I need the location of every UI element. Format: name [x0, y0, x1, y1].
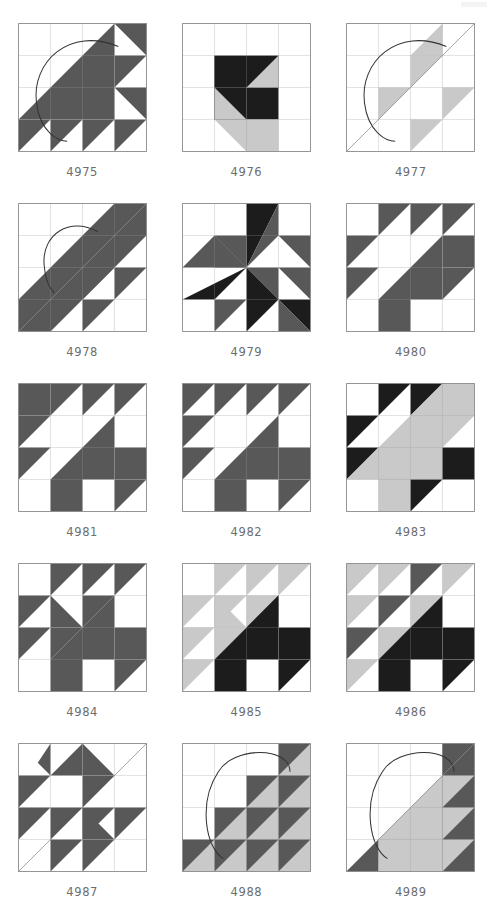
patch-dark [278, 628, 310, 660]
block-cell: 4985 [164, 548, 328, 728]
quilt-block-svg [180, 381, 313, 514]
block-label: 4981 [66, 525, 98, 539]
block-cell: 4977 [329, 8, 493, 188]
quilt-block-svg [180, 741, 313, 874]
block-cell: 4982 [164, 368, 328, 548]
block-grid: 4975497649774978497949804981498249834984… [0, 8, 493, 908]
quilt-block-svg [16, 381, 149, 514]
patch-dark [443, 628, 475, 660]
quilt-block-svg [16, 21, 149, 154]
quilt-block-svg [16, 741, 149, 874]
quilt-block-svg [180, 201, 313, 334]
block-cell: 4987 [0, 728, 164, 908]
block-label: 4980 [395, 345, 427, 359]
patch-mid [18, 384, 50, 416]
block-label: 4986 [395, 705, 427, 719]
block-cell: 4981 [0, 368, 164, 548]
page-corner-mark [461, 2, 487, 7]
quilt-block-4984[interactable] [16, 561, 149, 694]
block-label: 4978 [66, 345, 98, 359]
quilt-block-4975[interactable] [16, 21, 149, 154]
block-label: 4976 [231, 165, 263, 179]
quilt-block-4978[interactable] [16, 201, 149, 334]
patch-mid [443, 236, 475, 268]
block-label: 4979 [231, 345, 263, 359]
quilt-block-svg [180, 561, 313, 694]
block-label: 4989 [395, 885, 427, 899]
catalog-page: 4975497649774978497949804981498249834984… [0, 0, 493, 923]
quilt-block-4982[interactable] [180, 381, 313, 514]
block-cell: 4976 [164, 8, 328, 188]
block-label: 4977 [395, 165, 427, 179]
quilt-block-svg [180, 21, 313, 154]
block-cell: 4980 [329, 188, 493, 368]
block-cell: 4984 [0, 548, 164, 728]
block-label: 4982 [231, 525, 263, 539]
quilt-block-4976[interactable] [180, 21, 313, 154]
block-label: 4987 [66, 885, 98, 899]
block-cell: 4975 [0, 8, 164, 188]
quilt-block-svg [344, 381, 477, 514]
patch-dark [246, 88, 278, 120]
quilt-block-svg [16, 201, 149, 334]
quilt-block-4987[interactable] [16, 741, 149, 874]
block-label: 4984 [66, 705, 98, 719]
quilt-block-svg [344, 561, 477, 694]
quilt-block-svg [344, 21, 477, 154]
block-cell: 4983 [329, 368, 493, 548]
quilt-block-4986[interactable] [344, 561, 477, 694]
quilt-block-4981[interactable] [16, 381, 149, 514]
block-label: 4985 [231, 705, 263, 719]
quilt-block-4977[interactable] [344, 21, 477, 154]
block-cell: 4986 [329, 548, 493, 728]
quilt-block-svg [344, 201, 477, 334]
patch-mid [114, 448, 146, 480]
quilt-block-svg [16, 561, 149, 694]
quilt-block-4983[interactable] [344, 381, 477, 514]
quilt-block-4988[interactable] [180, 741, 313, 874]
block-cell: 4978 [0, 188, 164, 368]
patch-mid [114, 628, 146, 660]
quilt-block-4980[interactable] [344, 201, 477, 334]
quilt-block-4989[interactable] [344, 741, 477, 874]
block-label: 4975 [66, 165, 98, 179]
block-cell: 4979 [164, 188, 328, 368]
block-label: 4988 [231, 885, 263, 899]
patch-mid [278, 448, 310, 480]
quilt-block-4979[interactable] [180, 201, 313, 334]
quilt-block-4985[interactable] [180, 561, 313, 694]
block-cell: 4988 [164, 728, 328, 908]
block-label: 4983 [395, 525, 427, 539]
patch-dark [443, 448, 475, 480]
quilt-block-svg [344, 741, 477, 874]
block-cell: 4989 [329, 728, 493, 908]
